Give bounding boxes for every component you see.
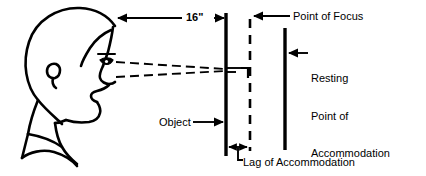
point-of-focus-label: Point of Focus <box>293 10 363 23</box>
rpa-label-line-2: Point of <box>311 110 390 123</box>
focus-connector <box>226 68 248 78</box>
rpa-label-line-1: Resting <box>311 72 390 85</box>
sight-lines <box>116 62 225 77</box>
object-label: Object <box>159 116 191 129</box>
lag-of-accommodation-label: Lag of Accommodation <box>243 156 355 169</box>
head-profile-icon <box>22 8 115 166</box>
diagram-canvas: 16" Point of Focus Resting Point of Acco… <box>0 0 426 176</box>
distance-label: 16" <box>186 11 203 24</box>
